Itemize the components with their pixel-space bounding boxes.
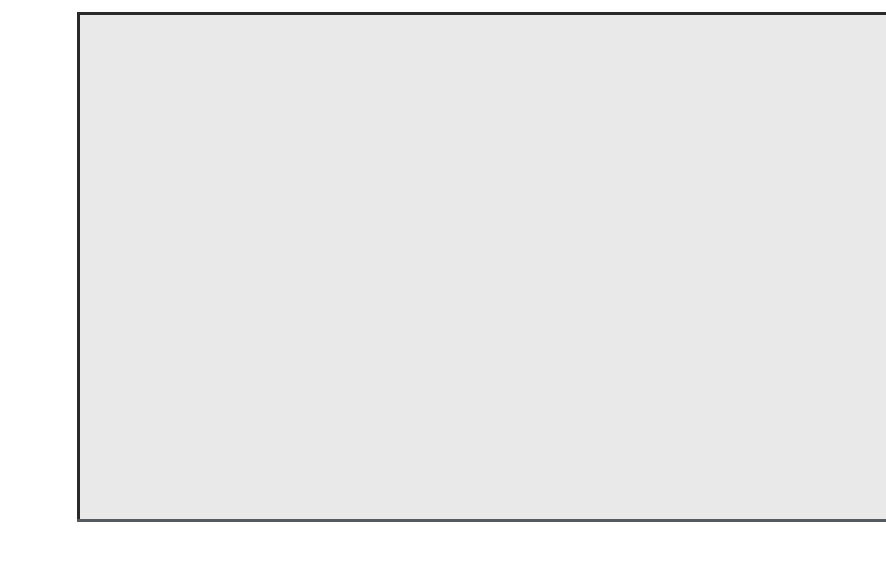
plot-area: [77, 12, 886, 521]
cropped-chart-title: [0, 0, 886, 9]
x-axis-line: [77, 519, 886, 522]
normal-probability-plot: [0, 0, 886, 579]
